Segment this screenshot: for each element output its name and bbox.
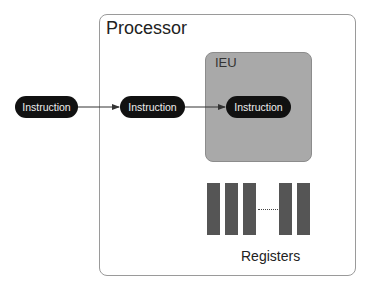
instruction-pill-processor: Instruction [120, 96, 185, 118]
register-bar [279, 183, 292, 235]
register-bar [243, 183, 256, 235]
arrows [0, 0, 369, 290]
register-ellipsis [258, 209, 278, 210]
register-bar [297, 183, 310, 235]
instruction-pill-ieu: Instruction [226, 96, 291, 118]
register-bar [207, 183, 220, 235]
registers-label: Registers [241, 248, 300, 264]
instruction-pill-outside: Instruction [15, 96, 78, 118]
register-bar [225, 183, 238, 235]
